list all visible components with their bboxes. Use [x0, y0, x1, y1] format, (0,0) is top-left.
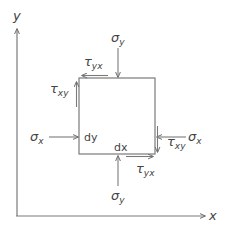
- svg-text:τyx: τyx: [84, 54, 103, 71]
- normal-stress-bottom: σy: [111, 156, 125, 205]
- shear-stress-bottom: τyx: [126, 157, 155, 179]
- sigma-y-top-sub: y: [118, 37, 125, 47]
- sigma-y-bottom-sub: y: [118, 195, 125, 205]
- normal-stress-left: σx: [30, 129, 78, 146]
- normal-stress-top: σy: [111, 30, 125, 77]
- element-height-label: dy: [84, 131, 98, 144]
- sigma-x-right-sub: x: [195, 136, 202, 146]
- shear-stress-top: τyx: [82, 54, 108, 76]
- tau-xy-left-symbol: τ: [50, 81, 58, 96]
- y-axis-label: y: [12, 8, 21, 23]
- shear-stress-left: τxy: [50, 81, 77, 107]
- sigma-x-left-sub: x: [37, 136, 44, 146]
- tau-xy-right-symbol: τ: [167, 134, 175, 149]
- svg-text:σx: σx: [188, 129, 202, 146]
- tau-xy-right-sub: xy: [174, 141, 186, 151]
- svg-text:τxy: τxy: [50, 81, 69, 98]
- x-axis-label: x: [208, 208, 217, 223]
- svg-text:σy: σy: [111, 188, 125, 205]
- svg-text:σx: σx: [30, 129, 44, 146]
- tau-yx-bottom-symbol: τ: [136, 161, 144, 176]
- tau-yx-top-sub: yx: [91, 61, 103, 71]
- tau-xy-left-sub: xy: [57, 88, 69, 98]
- element-width-label: dx: [114, 141, 128, 154]
- tau-yx-top-symbol: τ: [84, 54, 92, 69]
- stress-element-diagram: y x dy dx σy σy σx σx τyx τxy τxy τyx: [0, 0, 226, 228]
- svg-text:σy: σy: [111, 30, 125, 47]
- tau-yx-bottom-sub: yx: [143, 168, 155, 178]
- svg-text:τyx: τyx: [136, 161, 155, 178]
- shear-stress-right: τxy: [158, 126, 187, 152]
